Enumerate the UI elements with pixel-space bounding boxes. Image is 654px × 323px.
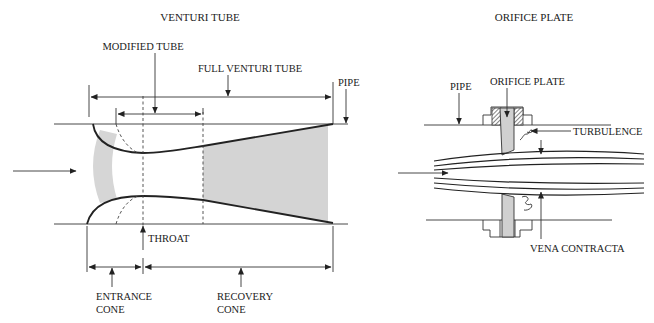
entrance-shade bbox=[93, 130, 117, 203]
orifice-plate-bottom bbox=[502, 194, 514, 237]
entrance-cone-label-line2: CONE bbox=[96, 304, 125, 315]
orifice-pipe-label: PIPE bbox=[450, 81, 472, 92]
streamline-3 bbox=[434, 164, 644, 170]
throat-label: THROAT bbox=[148, 233, 190, 244]
entrance-cone-label-line1: ENTRANCE bbox=[96, 291, 152, 302]
streamline-1 bbox=[434, 151, 644, 161]
modified-tube-label: MODIFIED TUBE bbox=[102, 41, 183, 52]
turbulence-swirl-top bbox=[520, 130, 533, 140]
orifice-plate-label: ORIFICE PLATE bbox=[490, 76, 565, 87]
venturi-title: VENTURI TUBE bbox=[160, 11, 240, 23]
recovery-cone-label-line2: CONE bbox=[217, 304, 246, 315]
top-gasket-left bbox=[492, 108, 501, 125]
turbulence-label: TURBULENCE bbox=[573, 126, 642, 137]
turbulence-swirl-bottom bbox=[522, 196, 532, 210]
flow-meter-diagram: VENTURI TUBE FULL VENTURI TUBE MODIFIED … bbox=[0, 0, 654, 323]
recovery-cone-label-line1: RECOVERY bbox=[217, 291, 273, 302]
orifice-title: ORIFICE PLATE bbox=[495, 11, 574, 23]
streamline-4 bbox=[434, 178, 644, 183]
recovery-cone-shade bbox=[203, 125, 328, 222]
modified-entrance-top bbox=[116, 124, 138, 153]
venturi-pipe-label: PIPE bbox=[338, 77, 360, 88]
orifice-plate-diagram: ORIFICE PLATE PIPE ORIF bbox=[398, 11, 644, 254]
vena-contracta-label: VENA CONTRACTA bbox=[530, 243, 625, 254]
top-gasket-right bbox=[514, 108, 523, 125]
venturi-tube-diagram: VENTURI TUBE FULL VENTURI TUBE MODIFIED … bbox=[13, 11, 360, 315]
modified-entrance-bottom bbox=[116, 196, 138, 224]
full-venturi-tube-label: FULL VENTURI TUBE bbox=[198, 63, 302, 74]
